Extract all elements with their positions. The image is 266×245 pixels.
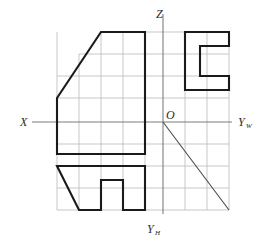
axis-label-yh-subscript: H	[154, 229, 161, 237]
axis-label-yw-letter: Y	[238, 115, 246, 129]
axis-label-yh-letter: Y	[147, 222, 155, 236]
drawing-canvas: Z X O Y W Y H	[0, 0, 266, 245]
axis-label-yh: Y H	[147, 222, 161, 237]
axis-label-z: Z	[156, 7, 163, 21]
axis-label-yw-subscript: W	[246, 122, 253, 130]
axis-label-x: X	[19, 115, 28, 129]
origin-label-o: O	[166, 108, 175, 122]
axis-label-yw: Y W	[238, 115, 253, 130]
axis-layer	[32, 14, 232, 214]
projection-diagram: Z X O Y W Y H	[0, 0, 266, 245]
